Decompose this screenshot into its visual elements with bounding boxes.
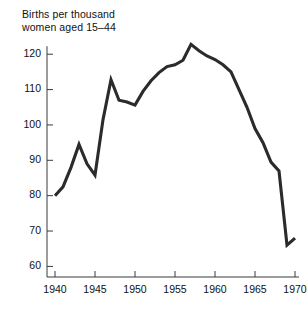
x-tick-label: 1955 bbox=[163, 283, 187, 295]
data-line-births-per-thousand bbox=[55, 44, 295, 245]
x-tick-label: 1940 bbox=[43, 283, 67, 295]
y-tick-label: 90 bbox=[29, 153, 41, 165]
fertility-rate-chart: Births per thousand women aged 15–44 607… bbox=[0, 0, 308, 311]
y-tick-label: 110 bbox=[24, 82, 41, 94]
y-tick-group: 60708090100110120 bbox=[23, 47, 53, 271]
x-tick-group: 1940194519501955196019651970 bbox=[43, 271, 307, 295]
y-tick-label: 120 bbox=[23, 47, 41, 59]
x-tick-label: 1950 bbox=[123, 283, 147, 295]
y-tick-label: 80 bbox=[29, 188, 41, 200]
chart-plot-area: 60708090100110120 1940194519501955196019… bbox=[0, 0, 308, 311]
y-axis: 60708090100110120 bbox=[23, 46, 53, 277]
y-tick-label: 100 bbox=[23, 118, 41, 130]
x-tick-label: 1965 bbox=[243, 283, 267, 295]
x-tick-label: 1970 bbox=[283, 283, 307, 295]
x-tick-label: 1945 bbox=[83, 283, 107, 295]
x-axis: 1940194519501955196019651970 bbox=[43, 271, 307, 295]
y-tick-label: 70 bbox=[29, 224, 41, 236]
x-tick-label: 1960 bbox=[203, 283, 227, 295]
y-tick-label: 60 bbox=[29, 259, 41, 271]
